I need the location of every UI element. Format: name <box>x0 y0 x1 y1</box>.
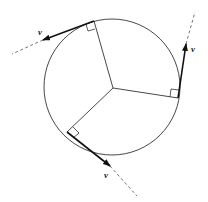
radius-bottom <box>67 88 113 132</box>
radius-right <box>113 88 178 98</box>
right-angle-marker-bottom <box>73 127 79 138</box>
radius-top <box>94 21 113 88</box>
velocity-label-bottom: v <box>104 170 109 180</box>
circle <box>44 19 180 155</box>
velocity-label-top: v <box>38 27 43 37</box>
velocity-arrow-right <box>178 44 186 98</box>
dashed-extensions <box>12 12 195 196</box>
velocity-arrow-top <box>43 21 94 40</box>
radii <box>67 21 178 132</box>
right-angle-marker-top <box>86 24 95 31</box>
right-angle-markers <box>73 24 179 138</box>
dashed-line-bottom <box>110 166 137 196</box>
diagram-canvas: v v v <box>0 0 208 202</box>
velocity-arrow-bottom <box>67 132 110 166</box>
velocity-label-right: v <box>191 44 196 54</box>
dashed-line-right <box>186 12 195 44</box>
circular-motion-diagram: v v v <box>0 0 208 202</box>
velocity-arrows <box>43 21 186 166</box>
dashed-line-top <box>12 40 43 54</box>
